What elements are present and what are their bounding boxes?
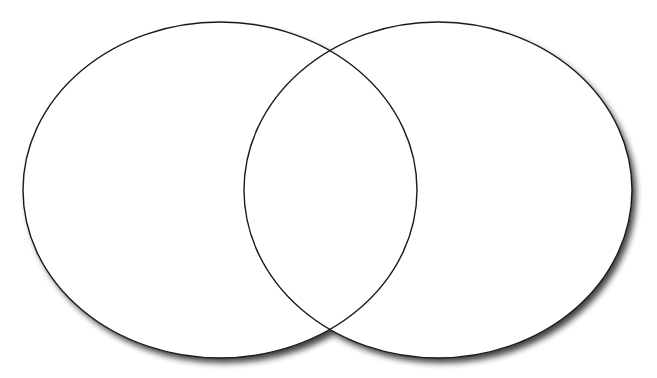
shadow-layer [23,22,632,358]
venn-diagram-canvas [0,0,657,378]
venn-diagram [0,0,657,378]
